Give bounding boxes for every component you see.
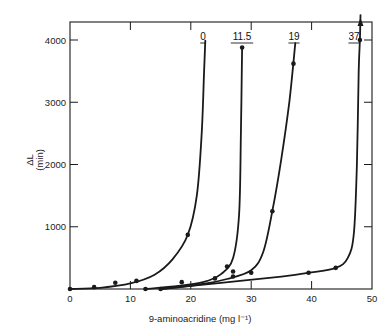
plot-border <box>70 22 372 289</box>
data-points <box>68 38 363 292</box>
curve-series-0 <box>70 41 205 289</box>
x-tick-label: 10 <box>125 293 136 304</box>
series-label-19: 19 <box>288 31 300 42</box>
y-tick-label: 2000 <box>45 159 66 170</box>
x-tick-label: 0 <box>67 293 72 304</box>
plot-frame <box>70 22 372 289</box>
data-point <box>249 271 254 276</box>
y-axis-title-unit: (min) <box>34 149 45 171</box>
data-point <box>185 233 190 238</box>
data-point <box>158 287 163 292</box>
data-point <box>92 285 97 290</box>
data-point <box>113 280 118 285</box>
data-point <box>231 274 236 279</box>
data-point <box>134 279 139 284</box>
data-point <box>225 264 230 269</box>
x-tick-label: 20 <box>186 293 197 304</box>
y-axis-ticks: 1000200030004000 <box>45 35 372 233</box>
x-tick-label: 30 <box>246 293 257 304</box>
data-point <box>270 209 275 214</box>
y-axis-title: ΔL (min) <box>24 149 45 171</box>
series-label-0: 0 <box>200 31 206 42</box>
data-point <box>179 280 184 285</box>
data-point <box>291 61 296 66</box>
data-point <box>306 271 311 276</box>
x-axis-title: 9-aminoacridine (mg l⁻¹) <box>149 313 252 324</box>
curve-series-11-5 <box>146 48 243 290</box>
curve-series-37 <box>161 15 361 289</box>
chart: 01020304050 1000200030004000 011.51937 9… <box>0 0 391 332</box>
x-axis-ticks: 01020304050 <box>67 22 377 304</box>
y-tick-label: 3000 <box>45 97 66 108</box>
series-label-11-5: 11.5 <box>233 31 252 42</box>
y-tick-label: 4000 <box>45 35 66 46</box>
y-tick-label: 1000 <box>45 221 66 232</box>
x-tick-label: 40 <box>306 293 317 304</box>
data-point <box>68 287 73 292</box>
curve-series-19 <box>161 43 296 289</box>
data-point <box>333 266 338 271</box>
data-point <box>143 287 148 292</box>
series-labels: 011.51937 <box>200 31 360 43</box>
data-point <box>213 276 218 281</box>
data-point <box>240 45 245 50</box>
x-tick-label: 50 <box>367 293 378 304</box>
series-label-37: 37 <box>348 31 360 42</box>
data-point <box>231 269 236 274</box>
data-curves <box>70 15 364 289</box>
